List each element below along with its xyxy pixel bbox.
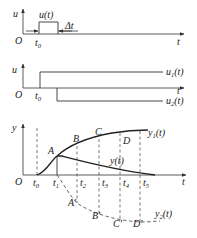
u2-step	[57, 88, 163, 101]
y-axis-label: y	[11, 122, 17, 133]
origin-label: O	[15, 176, 22, 187]
point-A: A	[47, 145, 55, 156]
superposition-diagram: u O t u(t) Δt t0 u O t t0 u1(t) u2(t) y …	[0, 0, 197, 238]
point-C: C	[95, 126, 102, 137]
y-label: y(t)	[109, 155, 125, 167]
pulse-panel: u O t u(t) Δt t0	[13, 8, 184, 49]
point-A-prime: A'	[67, 197, 77, 208]
point-C-prime: C'	[113, 218, 123, 229]
point-B-prime: B'	[92, 210, 101, 221]
pulse-label: u(t)	[39, 9, 54, 21]
u-axis-label: u	[12, 64, 17, 75]
tick-t0: t0	[33, 177, 40, 189]
tick-t2: t2	[80, 177, 87, 189]
u1-label: u1(t)	[166, 66, 184, 78]
pulse-shape	[39, 22, 58, 34]
tick-t3: t3	[102, 177, 109, 189]
steps-panel: u O t t0 u1(t) u2(t)	[12, 64, 184, 107]
point-D: D	[122, 135, 131, 146]
point-B: B	[73, 133, 79, 144]
t0-label: t0	[35, 90, 42, 102]
origin-label: O	[15, 89, 22, 100]
y2-label: y2(t)	[154, 208, 173, 220]
tick-t5: t5	[143, 177, 150, 189]
origin-label: O	[15, 35, 22, 46]
response-panel: y O t t0 t1 t2 t3 t4 t5 A B C D A' B' C'…	[11, 122, 186, 229]
tick-t4: t4	[123, 177, 130, 189]
delta-t-label: Δt	[64, 20, 74, 31]
y1-label: y1(t)	[147, 127, 166, 139]
u-axis-label: u	[13, 8, 18, 19]
u1-step	[40, 72, 163, 88]
point-D-prime: D'	[132, 218, 143, 229]
tick-t1: t1	[53, 177, 59, 189]
t0-label: t0	[35, 37, 42, 49]
t-axis-label: t	[182, 176, 185, 187]
u2-label: u2(t)	[166, 95, 184, 107]
t-axis-label: t	[177, 36, 180, 47]
